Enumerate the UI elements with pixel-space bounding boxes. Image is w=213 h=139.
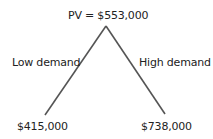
outcome-value-low: $415,000 xyxy=(17,121,68,132)
branch-line-high xyxy=(106,26,165,114)
outcome-value-high: $738,000 xyxy=(141,121,192,132)
branch-label-high-demand: High demand xyxy=(139,57,211,68)
branch-line-low xyxy=(45,26,106,115)
root-value-label: PV = $553,000 xyxy=(68,10,148,21)
branch-label-low-demand: Low demand xyxy=(12,57,80,68)
